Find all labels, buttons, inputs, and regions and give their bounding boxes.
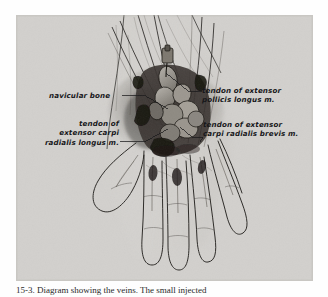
label-navicular-bone-line1: navicular bone [49,91,110,100]
label-extensor-carpi-radialis-longus: tendon of extensor carpi radialis longus… [27,119,119,147]
label-ecrb-line2: carpi radialis brevis m. [203,129,298,138]
label-ecrl-line2: extensor carpi [27,128,119,137]
hand-dissection-illustration [16,15,313,281]
label-epl-line1: tendon of extensor [202,86,281,95]
label-navicular-bone: navicular bone [49,91,110,100]
label-ecrl-line1: tendon of [27,119,119,128]
label-ecrl-line3: radialis longus m. [27,138,119,147]
figure-root: navicular bone tendon of extensor pollic… [0,0,328,297]
label-extensor-carpi-radialis-brevis: tendon of extensor carpi radialis brevis… [203,120,298,139]
figure-caption: 15-3. Diagram showing the veins. The sma… [16,285,316,296]
label-ecrb-line1: tendon of extensor [203,120,298,129]
label-epl-line2: pollicis longus m. [202,95,281,104]
anatomical-photograph-plate [16,15,313,281]
label-extensor-pollicis-longus: tendon of extensor pollicis longus m. [202,86,281,105]
